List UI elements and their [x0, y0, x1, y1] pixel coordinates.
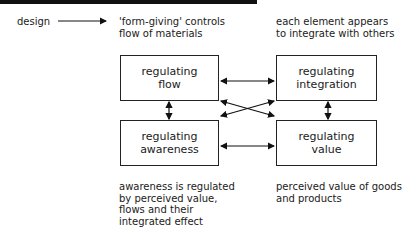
- box-regulating-integration: regulating integration: [276, 55, 377, 101]
- box-regulating-flow: regulating flow: [120, 55, 219, 101]
- box-regulating-awareness: regulating awareness: [120, 120, 219, 166]
- box-regulating-value: regulating value: [276, 120, 377, 166]
- awareness-note: awareness is regulated by perceived valu…: [119, 181, 235, 227]
- value-note: perceived value of goods and products: [276, 181, 402, 204]
